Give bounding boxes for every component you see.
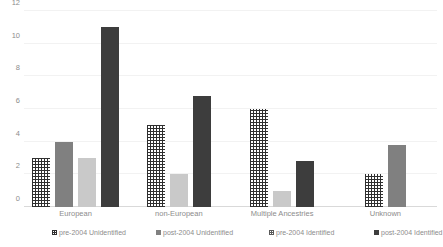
bar-group <box>231 11 334 207</box>
x-axis-category-label: Multiple Ancestries <box>231 209 334 219</box>
bar <box>78 158 96 207</box>
bar <box>55 142 73 207</box>
legend-item[interactable]: pre-2004 Unidentified <box>52 228 126 237</box>
legend-swatch-icon <box>374 230 379 235</box>
bar <box>273 191 291 207</box>
legend-item[interactable]: post-2004 Identified <box>374 228 443 237</box>
chart-legend: pre-2004 Unidentifiedpost-2004 Unidentif… <box>24 228 439 242</box>
bar-group <box>334 11 437 207</box>
y-axis-tick-label: 0 <box>0 195 20 203</box>
legend-item[interactable]: pre-2004 Identified <box>269 228 334 237</box>
legend-swatch-icon <box>269 230 274 235</box>
bar <box>365 174 383 207</box>
y-axis-tick-label: 2 <box>0 162 20 170</box>
y-axis-tick-label: 4 <box>0 130 20 138</box>
legend-label: pre-2004 Unidentified <box>59 228 126 237</box>
x-axis-categories: Europeannon-EuropeanMultiple AncestriesU… <box>24 209 437 221</box>
bar <box>193 96 211 207</box>
y-axis-tick-label: 12 <box>0 0 20 7</box>
bar-group <box>24 11 127 207</box>
legend-swatch-icon <box>52 230 57 235</box>
legend-label: pre-2004 Identified <box>276 228 334 237</box>
bar <box>147 125 165 207</box>
bar <box>388 145 406 207</box>
bar-group <box>127 11 230 207</box>
plot-area <box>24 11 437 207</box>
bar <box>32 158 50 207</box>
y-axis-tick-label: 8 <box>0 64 20 72</box>
y-axis-tick-label: 10 <box>0 32 20 40</box>
x-axis-category-label: non-European <box>127 209 230 219</box>
x-axis-category-label: Unknown <box>334 209 437 219</box>
y-axis-tick-label: 6 <box>0 97 20 105</box>
legend-item[interactable]: post-2004 Unidentified <box>156 228 233 237</box>
bar <box>296 161 314 207</box>
bar <box>101 27 119 207</box>
legend-label: post-2004 Identified <box>381 228 443 237</box>
legend-swatch-icon <box>156 230 161 235</box>
x-axis-category-label: European <box>24 209 127 219</box>
bar <box>250 109 268 207</box>
bar <box>170 174 188 207</box>
legend-label: post-2004 Unidentified <box>163 228 233 237</box>
